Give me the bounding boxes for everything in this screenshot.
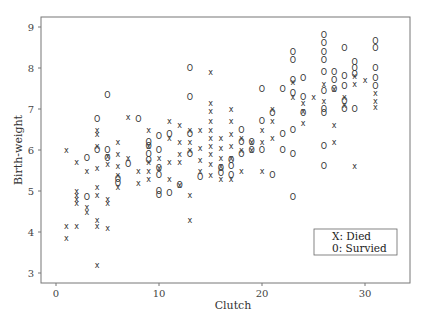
point-survived: O	[290, 150, 296, 159]
legend-entry-died: X: Died	[332, 230, 371, 242]
point-died: x	[218, 144, 223, 153]
point-died: x	[177, 121, 182, 130]
point-survived: O	[125, 160, 131, 169]
y-axis: 3456789	[28, 22, 41, 279]
point-survived: O	[290, 126, 296, 135]
point-survived: O	[187, 130, 193, 139]
point-died: x	[167, 158, 172, 167]
point-survived: O	[156, 132, 162, 141]
point-died: x	[229, 117, 234, 126]
point-survived: O	[341, 72, 347, 81]
point-survived: O	[321, 162, 327, 171]
point-survived: O	[84, 154, 90, 163]
point-died: x	[95, 261, 100, 270]
y-tick-label: 4	[28, 227, 34, 238]
point-survived: O	[259, 85, 265, 94]
x-axis-label: Clutch	[215, 299, 252, 312]
point-died: x	[105, 224, 110, 233]
point-survived: O	[269, 109, 275, 118]
point-died: x	[64, 222, 69, 231]
point-survived: O	[156, 171, 162, 180]
point-survived: O	[187, 64, 193, 73]
point-died: x	[115, 150, 120, 159]
y-axis-label: Birth-weight	[12, 114, 25, 185]
point-died: x	[146, 126, 151, 135]
y-tick-label: 3	[28, 268, 34, 279]
point-survived: O	[290, 89, 296, 98]
point-survived: O	[290, 56, 296, 65]
point-survived: O	[352, 105, 358, 114]
point-died: x	[74, 199, 79, 208]
point-survived: O	[341, 105, 347, 114]
point-survived: O	[187, 150, 193, 159]
point-survived: O	[104, 154, 110, 163]
point-died: x	[157, 154, 162, 163]
point-survived: O	[218, 169, 224, 178]
point-survived: O	[84, 193, 90, 202]
point-survived: O	[259, 117, 265, 126]
y-tick-label: 8	[28, 63, 34, 74]
point-died: x	[260, 167, 265, 176]
point-survived: O	[94, 146, 100, 155]
point-died: x	[136, 179, 141, 188]
x-axis: 0102030	[53, 283, 372, 299]
point-survived: O	[321, 87, 327, 96]
point-died: x	[95, 222, 100, 231]
point-survived: O	[146, 156, 152, 165]
point-died: x	[85, 208, 90, 217]
point-died: x	[311, 93, 316, 102]
point-died: x	[177, 158, 182, 167]
point-died: x	[270, 117, 275, 126]
point-died: x	[64, 146, 69, 155]
x-tick-label: 0	[53, 288, 59, 299]
point-survived: O	[115, 179, 121, 188]
point-died: x	[332, 121, 337, 130]
point-survived: O	[94, 115, 100, 124]
point-survived: O	[279, 85, 285, 94]
point-survived: O	[156, 191, 162, 200]
point-survived: O	[279, 130, 285, 139]
legend-entry-survived: 0: Survied	[332, 242, 387, 254]
point-died: x	[105, 199, 110, 208]
point-survived: O	[269, 171, 275, 180]
point-survived: O	[321, 109, 327, 118]
point-survived: O	[279, 146, 285, 155]
point-died: x	[74, 222, 79, 231]
point-survived: O	[321, 142, 327, 151]
point-died: x	[188, 191, 193, 200]
point-died: x	[198, 126, 203, 135]
point-survived: O	[372, 44, 378, 53]
point-died: x	[146, 175, 151, 184]
point-survived: O	[372, 82, 378, 91]
point-survived: O	[238, 138, 244, 147]
scatter-chart: 3456789 0102030 Birth-weight Clutch xxxx…	[0, 0, 424, 321]
point-died: x	[208, 107, 213, 116]
point-survived: O	[197, 173, 203, 182]
x-tick-label: 30	[359, 288, 372, 299]
point-died: x	[363, 76, 368, 85]
point-died: x	[301, 119, 306, 128]
point-survived: O	[176, 181, 182, 190]
point-died: x	[74, 158, 79, 167]
point-died: x	[352, 80, 357, 89]
point-survived: O	[352, 70, 358, 79]
legend: X: Died 0: Survied	[314, 229, 397, 255]
point-died: x	[126, 113, 131, 122]
point-died: x	[95, 164, 100, 173]
point-died: x	[239, 167, 244, 176]
point-died: x	[332, 138, 337, 147]
point-died: x	[136, 167, 141, 176]
point-survived: O	[238, 126, 244, 135]
point-survived: O	[228, 171, 234, 180]
y-tick-label: 5	[28, 186, 34, 197]
point-survived: O	[372, 64, 378, 73]
point-died: x	[229, 142, 234, 151]
point-died: x	[208, 68, 213, 77]
point-survived: O	[341, 82, 347, 91]
point-died: x	[198, 144, 203, 153]
point-survived: O	[166, 189, 172, 198]
point-died: x	[188, 216, 193, 225]
point-died: x	[229, 105, 234, 114]
point-died: x	[64, 234, 69, 243]
point-survived: O	[259, 146, 265, 155]
